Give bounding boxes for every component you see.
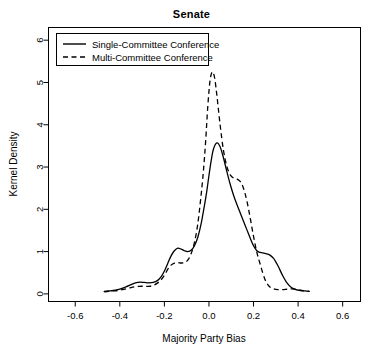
y-tick-label: 2 [34, 207, 45, 212]
chart-legend: Single-Committee Conference Multi-Commit… [57, 34, 220, 66]
x-axis-title: Majority Party Bias [162, 333, 245, 344]
x-tick-label: 0.0 [202, 310, 215, 321]
y-axis: 0123456 [34, 38, 49, 297]
plot-frame [49, 28, 361, 302]
x-tick-label: -0.6 [67, 310, 83, 321]
x-tick-label: -0.2 [156, 310, 172, 321]
x-tick-label: 0.6 [336, 310, 349, 321]
series-multi-committee-conference [104, 72, 309, 292]
y-tick-label: 3 [34, 164, 45, 169]
x-tick-label: 0.4 [291, 310, 304, 321]
x-tick-label: -0.4 [112, 310, 128, 321]
y-tick-label: 1 [34, 249, 45, 254]
x-tick-label: 0.2 [247, 310, 260, 321]
series-container [104, 72, 309, 292]
series-single-committee-conference [104, 143, 309, 291]
legend-label-multi-committee: Multi-Committee Conference [92, 52, 213, 63]
kernel-density-plot: 0123456 -0.6-0.4-0.20.00.20.40.6 Majorit… [0, 0, 383, 361]
y-tick-label: 6 [34, 38, 45, 43]
x-axis: -0.6-0.4-0.20.00.20.40.6 [67, 302, 349, 321]
chart-figure: Senate 0123456 -0.6-0.4-0.20.00.20.40.6 … [0, 0, 383, 361]
y-tick-label: 0 [34, 291, 45, 296]
y-tick-label: 5 [34, 80, 45, 85]
y-axis-title: Kernel Density [8, 131, 19, 196]
y-tick-label: 4 [34, 122, 45, 127]
legend-label-single-committee: Single-Committee Conference [92, 39, 219, 50]
